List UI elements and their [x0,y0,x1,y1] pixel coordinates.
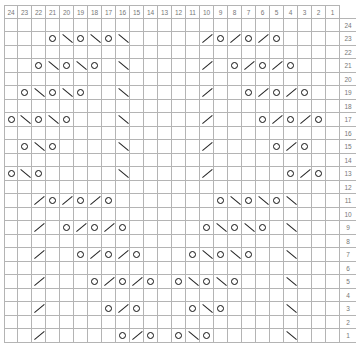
knit-cell [228,100,242,114]
knit-cell [270,127,284,141]
knit-cell [158,275,172,289]
knit-cell [270,19,284,33]
knit-cell [326,73,340,87]
yarn-over-icon [214,302,228,316]
knit-cell [256,316,270,330]
yarn-over-icon [186,248,200,262]
knit-cell [18,289,32,303]
knit-cell [326,59,340,73]
knit-cell [46,221,60,235]
knit-cell [256,289,270,303]
knit-cell [60,127,74,141]
knit-cell [158,154,172,168]
knit-cell [242,100,256,114]
column-label: 9 [214,5,228,19]
knit-cell [186,59,200,73]
knit-cell [228,73,242,87]
knit-cell [18,208,32,222]
knit-cell [4,154,18,168]
knit-cell [172,167,186,181]
yarn-over-icon [4,113,18,127]
knit-cell [326,181,340,195]
k2tog-icon [298,167,312,181]
knit-cell [284,289,298,303]
knit-cell [298,262,312,276]
knit-cell [130,59,144,73]
ssk-icon [32,86,46,100]
knit-cell [326,235,340,249]
knit-cell [32,154,46,168]
column-label: 13 [158,5,172,19]
knit-cell [46,275,60,289]
yarn-over-icon [270,194,284,208]
knit-cell [18,46,32,60]
knit-cell [298,275,312,289]
row-label: 20 [340,73,356,87]
knit-cell [88,289,102,303]
knit-cell [88,154,102,168]
column-label: 16 [116,5,130,19]
ssk-icon [116,59,130,73]
knit-cell [32,262,46,276]
yarn-over-icon [130,302,144,316]
knit-cell [144,140,158,154]
knit-cell [130,289,144,303]
knit-cell [242,329,256,343]
knit-cell [74,167,88,181]
knit-cell [186,262,200,276]
knit-cell [284,181,298,195]
yarn-over-icon [256,113,270,127]
yarn-over-icon [228,221,242,235]
knit-cell [270,289,284,303]
knit-cell [46,73,60,87]
knit-cell [158,167,172,181]
row-label: 10 [340,208,356,222]
knit-cell [102,208,116,222]
knit-cell [144,194,158,208]
knit-cell [88,127,102,141]
chart-row-3: 3 [4,302,356,316]
knit-cell [200,208,214,222]
knit-cell [158,262,172,276]
knit-cell [158,100,172,114]
row-label: 4 [340,289,356,303]
k2tog-icon [116,248,130,262]
knit-cell [18,221,32,235]
knit-cell [74,100,88,114]
knit-cell [172,181,186,195]
row-label: 1 [340,329,356,343]
knit-cell [102,46,116,60]
knit-cell [158,289,172,303]
knit-cell [4,208,18,222]
yarn-over-icon [32,113,46,127]
ssk-icon [60,86,74,100]
knit-cell [242,275,256,289]
knit-cell [186,46,200,60]
knit-cell [116,100,130,114]
yarn-over-icon [18,140,32,154]
knit-cell [200,100,214,114]
knit-cell [326,302,340,316]
knit-cell [284,127,298,141]
knit-cell [144,154,158,168]
knit-cell [4,275,18,289]
column-label: 17 [102,5,116,19]
knit-cell [214,167,228,181]
yarn-over-icon [116,329,130,343]
knit-cell [284,73,298,87]
knit-cell [172,46,186,60]
knit-cell [144,113,158,127]
knit-cell [18,248,32,262]
knit-cell [242,140,256,154]
knit-cell [214,73,228,87]
knit-cell [116,289,130,303]
yarn-over-icon [214,32,228,46]
knit-cell [102,262,116,276]
knit-cell [298,100,312,114]
knit-cell [144,73,158,87]
ssk-icon [200,248,214,262]
knit-cell [186,32,200,46]
knit-cell [144,248,158,262]
column-label: 10 [200,5,214,19]
knit-cell [88,235,102,249]
